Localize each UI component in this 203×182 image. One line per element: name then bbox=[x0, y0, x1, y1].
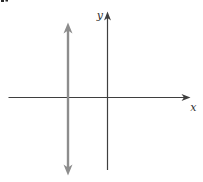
cropped-text-artifact bbox=[1, 0, 4, 2]
cropped-text-artifact bbox=[6, 0, 9, 2]
x-axis-label: x bbox=[190, 101, 197, 114]
plot-svg: y x bbox=[0, 0, 203, 182]
coordinate-plane-figure: y x bbox=[0, 0, 203, 182]
y-axis-label: y bbox=[96, 9, 104, 22]
